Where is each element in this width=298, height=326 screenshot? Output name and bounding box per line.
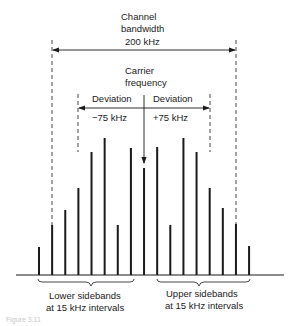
title-line-3: 200 kHz <box>125 36 160 47</box>
upper-sidebands-line-1: Upper sidebands <box>166 288 238 299</box>
lower-sidebands-line-1: Lower sidebands <box>49 290 121 301</box>
carrier-line-1: Carrier <box>125 65 154 76</box>
deviation-right-value: +75 kHz <box>153 112 188 123</box>
title-line-2: bandwidth <box>121 23 164 34</box>
upper-sidebands-line-2: at 15 kHz intervals <box>165 300 243 311</box>
upper-sidebands-brace <box>157 279 250 286</box>
deviation-left-value: −75 kHz <box>92 112 127 123</box>
carrier-line-2: frequency <box>125 77 167 88</box>
figure-caption: Figure 3.11 <box>6 316 41 324</box>
deviation-right-label: Deviation <box>153 93 193 104</box>
lower-sidebands-line-2: at 15 kHz intervals <box>46 302 124 313</box>
lower-sidebands-brace <box>38 279 134 286</box>
title-line-1: Channel <box>121 11 156 22</box>
deviation-left-label: Deviation <box>92 93 132 104</box>
fm-spectrum-diagram: Channel bandwidth 200 kHz Carrier freque… <box>0 0 298 326</box>
